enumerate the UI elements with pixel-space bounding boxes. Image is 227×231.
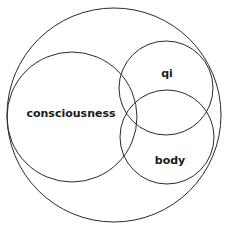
venn-diagram: consciousness qi body	[0, 0, 227, 231]
qi-circle	[119, 41, 213, 135]
qi-label: qi	[161, 67, 173, 80]
consciousness-label: consciousness	[26, 107, 115, 120]
body-label: body	[155, 154, 185, 167]
